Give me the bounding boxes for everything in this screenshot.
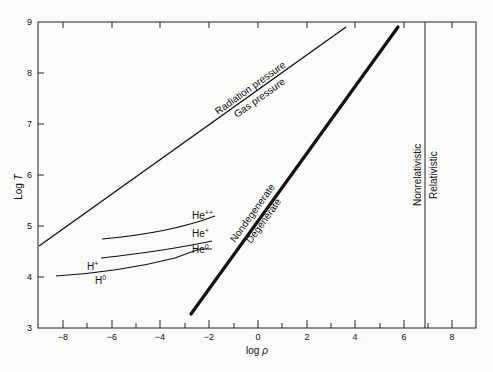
he-p-label: He+ bbox=[192, 227, 209, 239]
x-axis-ticks-top bbox=[63, 22, 452, 28]
x-tick-labels: −8 −6 −4 −2 0 2 4 6 8 bbox=[58, 332, 455, 342]
y-tick-9: 9 bbox=[27, 17, 32, 27]
relativistic-label: Relativistic bbox=[428, 151, 439, 199]
x-tick-2: 2 bbox=[304, 332, 309, 342]
x-tick-neg2: −2 bbox=[204, 332, 214, 342]
x-axis-title: log ρ bbox=[246, 345, 268, 356]
x-tick-neg8: −8 bbox=[58, 332, 68, 342]
h-zero-label: H0 bbox=[95, 274, 106, 286]
he-0-label: He0 bbox=[192, 243, 209, 255]
he-pp-label: He++ bbox=[192, 209, 213, 221]
y-tick-7: 7 bbox=[27, 119, 32, 129]
x-axis-ticks-bottom bbox=[63, 320, 452, 328]
plot-frame bbox=[38, 22, 476, 328]
x-tick-neg4: −4 bbox=[155, 332, 165, 342]
h-plus-label: H+ bbox=[87, 260, 98, 272]
x-tick-neg6: −6 bbox=[107, 332, 117, 342]
degeneracy-boundary-line bbox=[191, 27, 398, 314]
h-he0-ionization-curve bbox=[56, 249, 212, 276]
nonrelativistic-label: Nonrelativistic bbox=[412, 144, 423, 206]
log-rho-log-t-chart: 3 4 5 6 7 8 9 bbox=[0, 0, 493, 372]
y-tick-3: 3 bbox=[27, 323, 32, 333]
x-tick-8: 8 bbox=[449, 332, 454, 342]
y-tick-8: 8 bbox=[27, 68, 32, 78]
chart-svg: 3 4 5 6 7 8 9 bbox=[0, 0, 493, 372]
x-tick-4: 4 bbox=[352, 332, 357, 342]
x-tick-6: 6 bbox=[401, 332, 406, 342]
y-tick-labels: 3 4 5 6 7 8 9 bbox=[27, 17, 32, 333]
x-tick-0: 0 bbox=[255, 332, 260, 342]
y-tick-5: 5 bbox=[27, 221, 32, 231]
y-tick-6: 6 bbox=[27, 170, 32, 180]
y-axis bbox=[38, 73, 44, 277]
y-tick-4: 4 bbox=[27, 272, 32, 282]
y-axis-title: Log T bbox=[13, 173, 24, 199]
